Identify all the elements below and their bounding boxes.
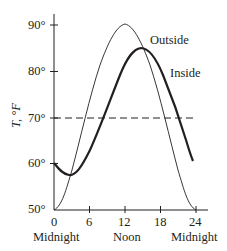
outside-curve — [54, 24, 196, 210]
x-sublabel-noon: Noon — [113, 231, 141, 244]
y-tick-label-90: 90° — [28, 19, 46, 32]
x-tick-label-0: 0 — [51, 216, 57, 229]
outside-label: Outside — [150, 34, 189, 47]
y-tick-label-80: 80° — [28, 65, 46, 78]
y-tick-label-70: 70° — [28, 112, 46, 125]
y-tick-label-60: 60° — [28, 157, 46, 170]
x-tick-label-6: 6 — [86, 216, 92, 229]
x-sublabel-midnight-right: Midnight — [171, 231, 218, 244]
x-sublabel-midnight-left: Midnight — [33, 231, 80, 244]
y-axis-title: T, °F — [9, 103, 24, 128]
x-tick-label-24: 24 — [189, 216, 202, 229]
y-tick-label-50: 50° — [28, 203, 46, 216]
inside-label: Inside — [170, 67, 201, 80]
x-tick-label-18: 18 — [154, 216, 167, 229]
x-tick-label-12: 12 — [118, 216, 131, 229]
